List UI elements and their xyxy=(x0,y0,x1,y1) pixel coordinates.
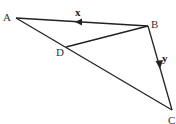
diagram-canvas: A B D C x y xyxy=(0,0,176,124)
label-C: C xyxy=(168,114,175,124)
label-B: B xyxy=(151,18,158,30)
label-vector-y: y xyxy=(162,52,168,64)
segment-BD xyxy=(66,26,148,47)
triangle-vector-diagram: A B D C x y xyxy=(0,0,176,124)
label-vector-x: x xyxy=(75,6,81,18)
segment-AC xyxy=(16,18,172,110)
label-A: A xyxy=(3,11,11,23)
label-D: D xyxy=(56,46,64,58)
arrow-x-icon xyxy=(75,19,82,26)
